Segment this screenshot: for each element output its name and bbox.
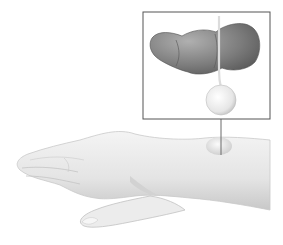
wrist-cyst-bump: [206, 137, 232, 155]
cyst-sac: [206, 85, 236, 115]
ganglion-cyst-illustration: [0, 0, 283, 245]
hand: [17, 132, 270, 228]
inset-magnified-view: [143, 12, 270, 119]
